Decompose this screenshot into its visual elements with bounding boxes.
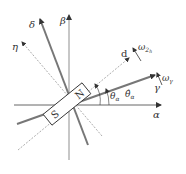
eta-axis: [22, 42, 102, 136]
eta-label: η: [12, 41, 18, 52]
delta-label: δ: [29, 19, 35, 30]
alpha-label: α: [153, 109, 160, 120]
omega-2-label: ω2h: [138, 42, 152, 54]
d-label: d: [121, 48, 128, 59]
beta-label: β: [59, 15, 66, 26]
omega-gamma-label: ωγ: [162, 73, 173, 85]
rotor-frame-diagram: N S β δ η d γ α θα θ̂α ω2h ωγ: [0, 0, 186, 174]
delta-axis: [40, 19, 88, 145]
gamma-label: γ: [154, 82, 160, 93]
theta-label: θα: [110, 91, 119, 102]
theta-hat-label: θ̂α: [125, 89, 134, 100]
